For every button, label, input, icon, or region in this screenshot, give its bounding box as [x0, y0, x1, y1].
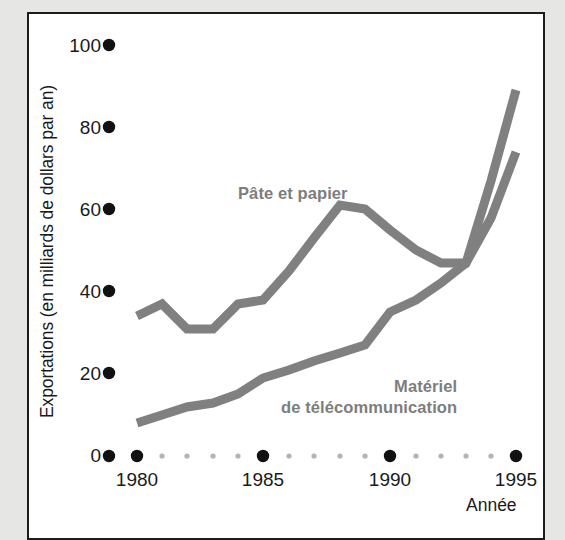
y-tick-label-20: 20: [53, 364, 101, 383]
x-tick-label-1985: 1985: [228, 470, 298, 489]
y-tick-label-80: 80: [53, 118, 101, 137]
x-tick-label-1980: 1980: [102, 470, 172, 489]
y-axis-title: Exportations (en milliards de dollars pa…: [37, 42, 58, 462]
series-annotation-telecom: Matériel de télécommunication: [281, 376, 457, 418]
y-tick-label-40: 40: [53, 282, 101, 301]
x-axis-minor-dots: [159, 453, 493, 458]
series-annotation-pulp: Pâte et papier: [238, 183, 348, 204]
series-annotation-telecom-line2: de télécommunication: [281, 397, 457, 418]
y-tick-label-60: 60: [53, 200, 101, 219]
y-axis-dots: [103, 39, 115, 379]
series-line-telecom: [137, 90, 516, 423]
y-tick-label-100: 100: [53, 36, 101, 55]
x-tick-label-1995: 1995: [481, 470, 551, 489]
y-tick-label-0: 0: [53, 446, 101, 465]
series-annotation-telecom-line1: Matériel: [281, 376, 457, 397]
x-axis-title: Année: [466, 495, 517, 516]
series-line-pulp: [137, 152, 516, 329]
x-tick-label-1990: 1990: [355, 470, 425, 489]
